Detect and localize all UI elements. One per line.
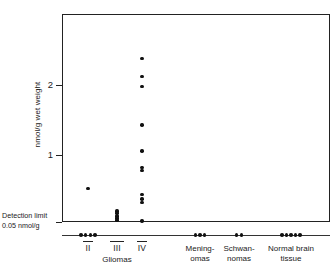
- data-point-below-detection-limit: [194, 233, 198, 237]
- data-point-below-detection-limit: [285, 233, 289, 237]
- x-category-label-iv: IV: [126, 241, 158, 253]
- data-point: [140, 169, 143, 172]
- data-point: [140, 219, 143, 222]
- data-point-below-detection-limit: [89, 233, 93, 237]
- x-category-label-normalbraintissue: Normal brain tissue: [259, 244, 323, 264]
- data-point: [140, 201, 143, 204]
- detection-limit-line2: 0.05 nmol/g: [2, 221, 58, 231]
- y-tick-mark-2: [56, 85, 62, 86]
- roman-numeral-text: III: [113, 243, 121, 253]
- scatter-plot-figure: 2 1 nmol/g wet weight Detection limit 0.…: [0, 0, 335, 274]
- x-category-label-ii: II: [72, 241, 104, 253]
- roman-numeral-text: II: [85, 243, 90, 253]
- data-point-below-detection-limit: [298, 233, 302, 237]
- data-point: [140, 193, 143, 196]
- x-group-label-gliomas: Gliomas: [87, 255, 147, 264]
- y-tick-mark-1: [56, 155, 62, 156]
- detection-limit-line1: Detection limit: [2, 211, 58, 221]
- data-point: [140, 57, 143, 60]
- data-point: [140, 75, 143, 78]
- data-point-below-detection-limit: [280, 233, 284, 237]
- y-axis-title: nmol/g wet weight: [33, 60, 42, 170]
- data-point-below-detection-limit: [93, 233, 97, 237]
- data-point: [140, 123, 143, 126]
- data-point-below-detection-limit: [198, 233, 202, 237]
- data-point-below-detection-limit: [79, 233, 83, 237]
- data-point: [140, 149, 143, 152]
- plot-area-frame: [62, 14, 330, 222]
- data-point: [140, 85, 143, 88]
- roman-numeral-text: IV: [138, 243, 146, 253]
- detection-limit-annotation: Detection limit 0.05 nmol/g: [2, 211, 58, 230]
- data-point-below-detection-limit: [240, 233, 244, 237]
- data-point: [115, 218, 118, 221]
- data-point-below-detection-limit: [289, 233, 293, 237]
- data-point: [86, 187, 89, 190]
